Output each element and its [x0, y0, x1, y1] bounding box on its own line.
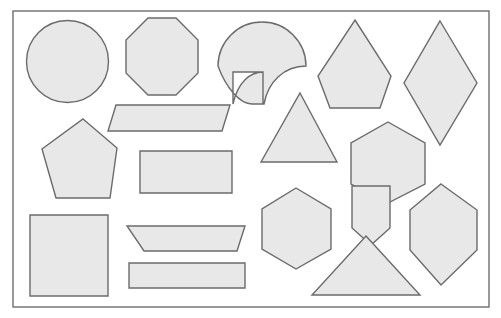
shape-hexagon-center	[262, 188, 331, 269]
shape-square	[30, 215, 108, 296]
shape-octagon	[126, 18, 198, 95]
shapes-svg	[0, 0, 501, 318]
shape-hexagon-elongated	[410, 184, 477, 285]
shape-rectangle-thin	[129, 263, 245, 288]
shape-triangle-isosceles	[261, 93, 337, 162]
shape-rhombus	[404, 21, 477, 145]
shape-fan	[218, 22, 306, 104]
shape-trapezoid-inverted	[127, 226, 245, 251]
shapes-canvas	[0, 0, 501, 318]
shape-parallelogram	[108, 105, 230, 131]
shape-pentagon-home	[352, 186, 390, 245]
shape-rectangle-large	[140, 151, 232, 193]
shapes-group	[27, 18, 478, 296]
shape-kite-pentagon	[318, 20, 391, 108]
shape-pentagon	[42, 119, 117, 198]
shape-circle	[27, 21, 109, 103]
